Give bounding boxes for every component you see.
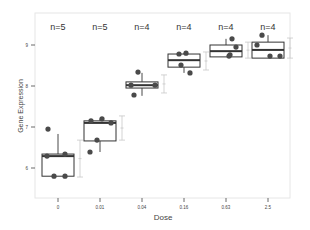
y-tick-label: 8 bbox=[25, 84, 28, 89]
y-tick-label: 6 bbox=[25, 166, 28, 171]
x-tick-label: 0.63 bbox=[222, 205, 231, 210]
data-point bbox=[267, 53, 272, 58]
n-label: n=4 bbox=[218, 22, 233, 32]
data-point bbox=[51, 174, 56, 179]
data-point bbox=[44, 154, 49, 159]
data-point bbox=[131, 92, 136, 97]
data-point bbox=[88, 118, 93, 123]
n-label: n=5 bbox=[92, 22, 107, 32]
x-axis: 00.010.040.160.632.5 bbox=[57, 198, 272, 210]
x-tick-label: 0.04 bbox=[138, 205, 147, 210]
data-point bbox=[226, 53, 231, 58]
y-tick-label: 9 bbox=[25, 43, 28, 48]
data-point bbox=[62, 151, 67, 156]
data-point bbox=[187, 70, 192, 75]
n-label: n=4 bbox=[176, 22, 191, 32]
x-tick-label: 2.5 bbox=[265, 205, 272, 210]
data-point bbox=[62, 174, 67, 179]
y-tick-label: 7 bbox=[25, 125, 28, 130]
x-axis-label: Dose bbox=[154, 213, 173, 222]
data-point bbox=[176, 51, 181, 56]
data-point bbox=[45, 126, 50, 131]
data-point bbox=[259, 33, 264, 38]
data-point bbox=[229, 36, 234, 41]
data-point bbox=[233, 44, 238, 49]
data-point bbox=[178, 62, 183, 67]
y-axis: 6789 bbox=[25, 43, 35, 171]
box-plot-chart: 6789 00.010.040.160.632.5 n=5n=5n=4n=4n=… bbox=[0, 0, 310, 230]
x-tick-label: 0.01 bbox=[96, 205, 105, 210]
n-label: n=4 bbox=[134, 22, 149, 32]
n-label: n=4 bbox=[260, 22, 275, 32]
data-point bbox=[152, 83, 157, 88]
x-tick-label: 0 bbox=[57, 205, 60, 210]
data-point bbox=[277, 53, 282, 58]
y-axis-label: Gene Expression bbox=[17, 79, 25, 133]
data-point bbox=[128, 83, 133, 88]
x-tick-label: 0.16 bbox=[180, 205, 189, 210]
data-point bbox=[87, 149, 92, 154]
data-point bbox=[94, 138, 99, 143]
n-label: n=5 bbox=[50, 22, 65, 32]
data-point bbox=[108, 120, 113, 125]
data-point bbox=[254, 42, 259, 47]
data-point bbox=[183, 51, 188, 56]
data-point bbox=[135, 69, 140, 74]
data-point bbox=[99, 116, 104, 121]
